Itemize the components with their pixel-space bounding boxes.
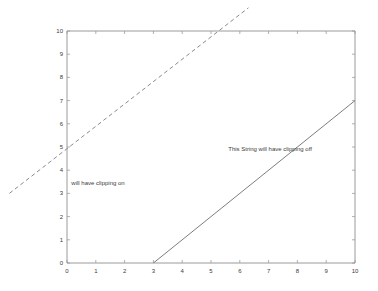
dashed-data-line xyxy=(9,8,248,194)
x-tick-label: 5 xyxy=(209,268,212,274)
y-tick-label: 6 xyxy=(60,121,63,127)
series-solid-line-clipping-on xyxy=(153,101,355,263)
x-tick-label: 6 xyxy=(238,268,241,274)
y-tick-label: 0 xyxy=(60,260,63,266)
series-dashed-line-clipping-off xyxy=(9,8,248,194)
clipping-on-label: will have clipping on xyxy=(71,180,124,186)
x-tick-label: 3 xyxy=(152,268,155,274)
y-tick-label: 7 xyxy=(60,98,63,104)
y-tick-label: 4 xyxy=(60,167,63,173)
figure-canvas: 012345678910 012345678910 will have clip… xyxy=(0,0,378,291)
y-tick-label: 8 xyxy=(60,74,63,80)
x-tick-label: 7 xyxy=(267,268,270,274)
x-tick-label: 8 xyxy=(296,268,299,274)
y-tick-label: 1 xyxy=(60,237,63,243)
x-tick-label: 1 xyxy=(94,268,97,274)
y-tick-label: 5 xyxy=(60,144,63,150)
plot-svg xyxy=(0,0,378,291)
x-tick-label: 2 xyxy=(123,268,126,274)
y-tick-label: 10 xyxy=(56,28,63,34)
x-tick-label: 9 xyxy=(325,268,328,274)
y-tick-label: 2 xyxy=(60,214,63,220)
x-tick-label: 10 xyxy=(352,268,359,274)
x-tick-label: 4 xyxy=(181,268,184,274)
clipping-off-label: This String will have clipping off xyxy=(228,146,312,152)
y-tick-label: 3 xyxy=(60,190,63,196)
x-tick-label: 0 xyxy=(65,268,68,274)
y-tick-label: 9 xyxy=(60,51,63,57)
solid-data-line xyxy=(153,101,355,263)
